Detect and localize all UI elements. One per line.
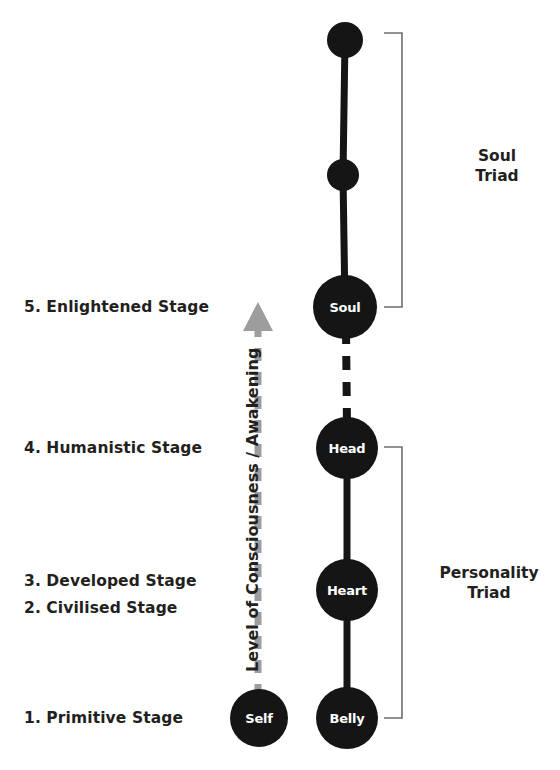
- node-head: Head: [316, 417, 378, 479]
- stage-label-3: 3. Developed Stage: [24, 572, 197, 590]
- node-self: Self: [230, 689, 288, 747]
- bracket-label-soul-triad-line2: Triad: [475, 166, 518, 186]
- diagram-canvas: Level of Consciousness / Awakening 5. En…: [0, 0, 560, 770]
- stage-label-4: 4. Humanistic Stage: [24, 439, 202, 457]
- node-belly: Belly: [316, 687, 378, 749]
- consciousness-arrow-head-icon: [243, 302, 273, 331]
- stage-label-2: 2. Civilised Stage: [24, 599, 177, 617]
- node-soul-label: Soul: [329, 301, 360, 314]
- node-head-label: Head: [329, 442, 366, 455]
- bracket-personality-triad: [384, 447, 402, 718]
- node-soul: Soul: [313, 275, 377, 339]
- stage-label-1: 1. Primitive Stage: [24, 709, 183, 727]
- node-belly-label: Belly: [329, 712, 364, 725]
- node-intermediate: [327, 159, 359, 191]
- bracket-label-personality-triad: Personality Triad: [439, 563, 538, 604]
- connector-monad-intermediate: [343, 40, 345, 175]
- bracket-soul-triad: [384, 33, 402, 307]
- node-heart: Heart: [316, 559, 378, 621]
- node-monad: [327, 22, 363, 58]
- node-heart-label: Heart: [327, 584, 367, 597]
- bracket-label-personality-triad-line2: Triad: [439, 583, 538, 603]
- node-self-label: Self: [245, 712, 273, 725]
- connector-soul-head: [346, 330, 347, 425]
- stage-label-5: 5. Enlightened Stage: [24, 298, 209, 316]
- bracket-label-soul-triad: Soul Triad: [475, 146, 518, 187]
- bracket-label-soul-triad-line1: Soul: [475, 146, 518, 166]
- consciousness-axis-label: Level of Consciousness / Awakening: [243, 348, 262, 672]
- diagram-vector-layer: [0, 0, 560, 770]
- bracket-label-personality-triad-line1: Personality: [439, 563, 538, 583]
